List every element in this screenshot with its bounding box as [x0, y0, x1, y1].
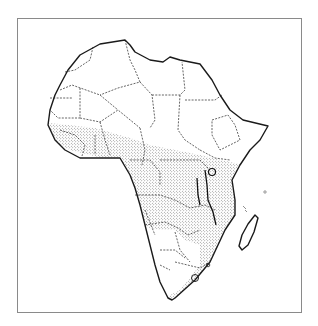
comoros-islands	[243, 206, 247, 212]
africa-map	[0, 0, 318, 326]
island-marker	[264, 191, 266, 193]
madagascar	[239, 215, 258, 250]
